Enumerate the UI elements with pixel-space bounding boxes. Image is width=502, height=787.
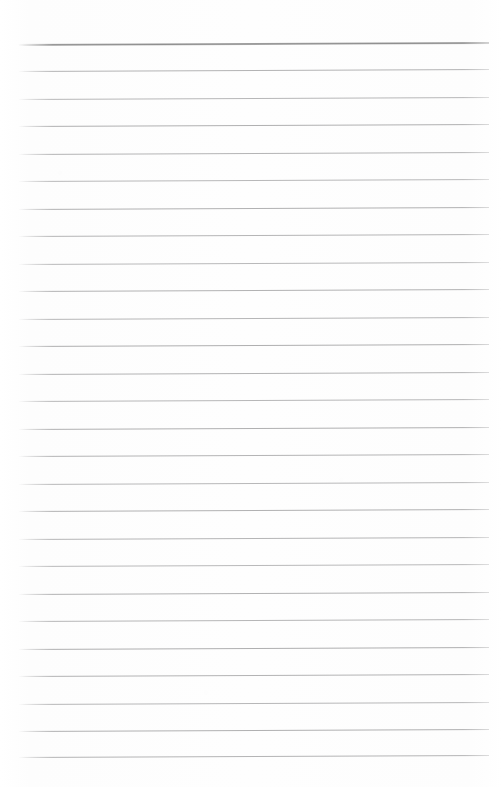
- writing-area[interactable]: [0, 0, 502, 787]
- scanned-page: [0, 0, 502, 787]
